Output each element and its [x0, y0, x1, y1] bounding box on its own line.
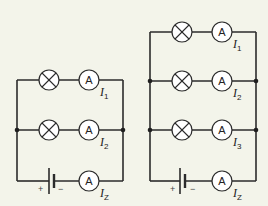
current-label-iz: IZ	[232, 186, 242, 202]
plus-sign: +	[170, 184, 175, 194]
ammeter-icon: A	[212, 22, 232, 42]
current-label-i1: I1	[232, 37, 242, 53]
ammeter-symbol: A	[85, 124, 93, 136]
ammeter-icon: A	[212, 71, 232, 91]
branch-2: A I2	[15, 120, 126, 151]
lamp-icon	[172, 120, 192, 140]
battery-icon	[49, 168, 54, 194]
branch-2: A I2	[148, 71, 259, 102]
junction-dot	[148, 79, 153, 84]
ammeter-symbol: A	[218, 124, 226, 136]
ammeter-symbol: A	[218, 175, 226, 187]
junction-dot	[148, 128, 153, 133]
ammeter-symbol: A	[85, 175, 93, 187]
ammeter-icon: A	[212, 171, 232, 191]
branch-1: A I1	[150, 22, 256, 53]
lamp-icon	[172, 22, 192, 42]
ammeter-symbol: A	[218, 75, 226, 87]
supply-branch: + − A IZ	[150, 168, 256, 202]
ammeter-icon: A	[79, 70, 99, 90]
current-label-i3: I3	[232, 135, 242, 151]
junction-dot	[121, 128, 126, 133]
junction-dot	[15, 128, 20, 133]
ammeter-symbol: A	[218, 26, 226, 38]
current-label-iz: IZ	[99, 186, 109, 202]
battery-icon	[180, 168, 185, 194]
minus-sign: −	[58, 184, 63, 194]
lamp-icon	[39, 70, 59, 90]
ammeter-icon: A	[79, 120, 99, 140]
current-label-i2: I2	[99, 135, 109, 151]
plus-sign: +	[38, 184, 43, 194]
minus-sign: −	[190, 184, 195, 194]
ammeter-icon: A	[212, 120, 232, 140]
branch-3: A I3	[148, 120, 259, 151]
junction-dot	[254, 128, 259, 133]
circuit-three-bulbs: A I1 A I2	[148, 22, 259, 202]
lamp-icon	[172, 71, 192, 91]
current-label-i2: I2	[232, 86, 242, 102]
ammeter-symbol: A	[85, 74, 93, 86]
lamp-icon	[39, 120, 59, 140]
current-label-i1: I1	[99, 85, 109, 101]
junction-dot	[254, 79, 259, 84]
circuit-diagram: A I1 A I2	[0, 0, 268, 206]
branch-1: A I1	[17, 70, 123, 101]
circuit-two-bulbs: A I1 A I2	[15, 70, 126, 202]
ammeter-icon: A	[79, 171, 99, 191]
supply-branch: + − A IZ	[17, 168, 123, 202]
